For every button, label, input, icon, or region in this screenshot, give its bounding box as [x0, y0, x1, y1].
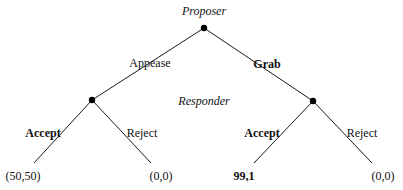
action-grab-label: Grab: [253, 57, 280, 71]
action-left-accept-label: Accept: [25, 126, 60, 140]
responder-label: Responder: [178, 94, 229, 108]
action-left-reject-label: Reject: [127, 126, 158, 140]
responder-node-left: [89, 97, 95, 103]
action-right-accept-label: Accept: [244, 126, 279, 140]
payoff-appease-accept: (50,50): [6, 169, 41, 183]
proposer-label: Proposer: [182, 4, 226, 18]
action-right-reject-label: Reject: [347, 126, 378, 140]
proposer-node: [201, 25, 207, 31]
payoff-grab-accept: 99,1: [234, 169, 255, 183]
payoff-appease-reject: (0,0): [150, 169, 173, 183]
payoff-grab-reject: (0,0): [372, 169, 395, 183]
action-appease-label: Appease: [129, 56, 170, 70]
responder-node-right: [310, 98, 316, 104]
